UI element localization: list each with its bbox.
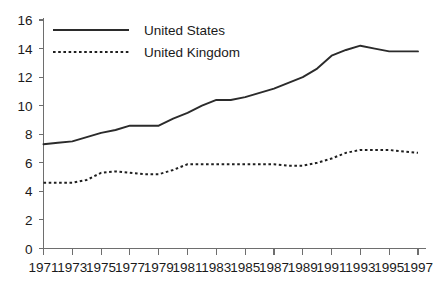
y-tick-label: 2 bbox=[25, 213, 33, 228]
x-tick-label: 1975 bbox=[86, 260, 116, 275]
y-tick-label: 6 bbox=[25, 156, 33, 171]
y-tick-label: 10 bbox=[17, 99, 32, 114]
y-tick-label: 4 bbox=[25, 184, 33, 199]
y-tick-label: 8 bbox=[25, 127, 33, 142]
x-tick-label: 1971 bbox=[28, 260, 58, 275]
y-tick-label: 0 bbox=[25, 242, 33, 257]
legend-label: United Kingdom bbox=[144, 45, 240, 60]
x-tick-label: 1989 bbox=[288, 260, 318, 275]
x-tick-label: 1995 bbox=[374, 260, 404, 275]
series-line-united-kingdom bbox=[44, 150, 419, 183]
x-tick-label: 1973 bbox=[57, 260, 87, 275]
line-chart: 0246810121416 19711973197519771979198119… bbox=[0, 0, 439, 285]
series-group bbox=[44, 46, 419, 183]
x-tick-label: 1991 bbox=[317, 260, 347, 275]
x-tick-label: 1987 bbox=[259, 260, 289, 275]
y-tick-label: 12 bbox=[17, 70, 32, 85]
chart-canvas: 0246810121416 19711973197519771979198119… bbox=[0, 0, 439, 285]
series-line-united-states bbox=[44, 46, 419, 145]
x-tick-label: 1993 bbox=[345, 260, 375, 275]
x-tick-label: 1979 bbox=[144, 260, 174, 275]
x-tick-label: 1997 bbox=[403, 260, 433, 275]
chart-legend: United StatesUnited Kingdom bbox=[53, 23, 240, 60]
x-tick-label: 1983 bbox=[201, 260, 231, 275]
y-tick-label: 14 bbox=[17, 42, 33, 57]
x-tick-label: 1985 bbox=[230, 260, 260, 275]
y-tick-label: 16 bbox=[17, 13, 32, 28]
y-axis-ticks: 0246810121416 bbox=[17, 13, 43, 257]
legend-label: United States bbox=[144, 23, 225, 38]
x-tick-label: 1981 bbox=[173, 260, 203, 275]
x-tick-label: 1977 bbox=[115, 260, 145, 275]
x-axis-ticks: 1971197319751977197919811983198519871989… bbox=[28, 249, 433, 275]
